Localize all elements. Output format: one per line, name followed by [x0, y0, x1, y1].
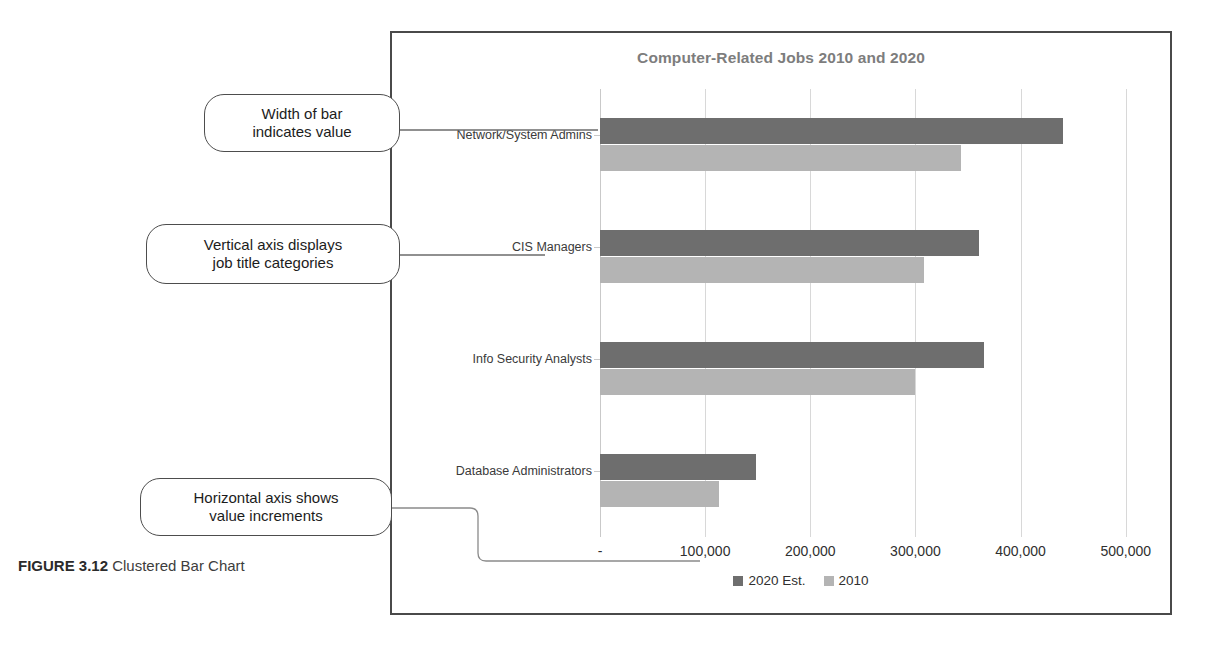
callout-vertical-axis: Vertical axis displays job title categor…	[146, 224, 400, 284]
callout-width-of-bar: Width of bar indicates value	[204, 94, 400, 152]
figure-container: Computer-Related Jobs 2010 and 2020 Netw…	[0, 0, 1212, 662]
callout-horizontal-axis: Horizontal axis shows value increments	[140, 478, 392, 536]
figure-number: FIGURE 3.12	[18, 557, 108, 574]
callout-width-of-bar-text: Width of bar indicates value	[252, 105, 351, 142]
figure-caption: FIGURE 3.12 Clustered Bar Chart	[18, 556, 268, 576]
callout-vertical-axis-text: Vertical axis displays job title categor…	[204, 236, 342, 273]
callout-horizontal-axis-text: Horizontal axis shows value increments	[193, 489, 338, 526]
figure-caption-text: Clustered Bar Chart	[108, 557, 245, 574]
